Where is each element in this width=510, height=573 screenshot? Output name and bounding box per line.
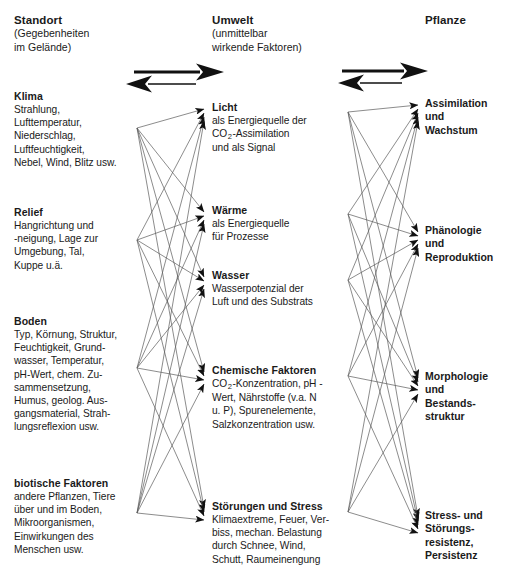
block-stoerungen-und-stress-title: Störungen und Stress (212, 500, 352, 513)
links-umwelt-to-pflanze (348, 105, 418, 533)
block-wasser: Wasser Wasserpotenzial derLuft und des S… (212, 269, 340, 308)
column-subtitle-umwelt-line1: (unmittelbar (212, 27, 340, 41)
column-header-umwelt: Umwelt (unmittelbar wirkende Faktoren) (212, 14, 340, 54)
block-chemische-faktoren-body: CO2-Konzentration, pH -Wert, Nährstoffe … (212, 377, 348, 431)
arrow-right-pair (338, 63, 428, 92)
column-subtitle-standort: (Gegebenheiten im Gelände) (14, 27, 164, 54)
block-klima-body: Strahlung,Lufttemperatur,Niederschlag,Lu… (14, 103, 164, 169)
block-boden-title: Boden (14, 315, 164, 328)
column-header-standort: Standort (Gegebenheiten im Gelände) (14, 14, 164, 54)
block-licht: Licht als Energiequelle derCO2-Assimilat… (212, 101, 340, 155)
column-subtitle-umwelt-line2: wirkende Faktoren) (212, 41, 340, 55)
column-header-pflanze: Pflanze (425, 14, 509, 26)
block-stoerungen-und-stress: Störungen und Stress Klimaextreme, Feuer… (212, 500, 352, 566)
block-licht-title: Licht (212, 101, 340, 114)
arrow-left-pair (126, 64, 224, 93)
column-title-standort: Standort (14, 14, 164, 26)
block-assimilation-und-wachstum: AssimilationundWachstum (425, 97, 509, 137)
block-relief-body: Hangrichtung und-neigung, Lage zurUmgebu… (14, 219, 164, 272)
column-subtitle-standort-line2: im Gelände) (14, 41, 164, 55)
block-stress-und-stoerungsresistenz-title: Stress- undStörungs-resistenz,Persistenz (425, 509, 509, 563)
block-morphologie-und-bestandsstruktur: MorphologieundBestands-struktur (425, 370, 509, 424)
block-relief-title: Relief (14, 206, 164, 219)
block-klima-title: Klima (14, 90, 164, 103)
column-title-pflanze: Pflanze (425, 14, 509, 26)
block-boden: Boden Typ, Körnung, Struktur,Feuchtigkei… (14, 315, 164, 434)
column-subtitle-umwelt: (unmittelbar wirkende Faktoren) (212, 27, 340, 54)
block-waerme-title: Wärme (212, 204, 340, 217)
block-waerme-body: als Energiequellefür Prozesse (212, 217, 340, 243)
block-chemische-faktoren-title: Chemische Faktoren (212, 364, 348, 377)
block-phaenologie-und-reproduktion: PhänologieundReproduktion (425, 224, 509, 264)
block-wasser-body: Wasserpotenzial derLuft und des Substrat… (212, 282, 340, 308)
diagram-root: Standort (Gegebenheiten im Gelände) Umwe… (0, 0, 510, 573)
block-wasser-title: Wasser (212, 269, 340, 282)
block-biotische-faktoren: biotische Faktoren andere Pflanzen, Tier… (14, 477, 164, 556)
block-phaenologie-und-reproduktion-title: PhänologieundReproduktion (425, 224, 509, 264)
block-waerme: Wärme als Energiequellefür Prozesse (212, 204, 340, 243)
column-subtitle-standort-line1: (Gegebenheiten (14, 27, 164, 41)
block-stress-und-stoerungsresistenz: Stress- undStörungs-resistenz,Persistenz (425, 509, 509, 563)
block-relief: Relief Hangrichtung und-neigung, Lage zu… (14, 206, 164, 272)
block-biotische-faktoren-body: andere Pflanzen, Tiereüber und im Boden,… (14, 490, 164, 556)
block-boden-body: Typ, Körnung, Struktur,Feuchtigkeit, Gru… (14, 328, 164, 434)
column-title-umwelt: Umwelt (212, 14, 340, 26)
block-stoerungen-und-stress-body: Klimaextreme, Feuer, Ver-biss, mechan. B… (212, 513, 352, 566)
block-morphologie-und-bestandsstruktur-title: MorphologieundBestands-struktur (425, 370, 509, 424)
block-licht-body: als Energiequelle derCO2-Assimilationund… (212, 114, 340, 155)
block-klima: Klima Strahlung,Lufttemperatur,Niedersch… (14, 90, 164, 169)
block-biotische-faktoren-title: biotische Faktoren (14, 477, 164, 490)
block-chemische-faktoren: Chemische Faktoren CO2-Konzentration, pH… (212, 364, 348, 431)
block-assimilation-und-wachstum-title: AssimilationundWachstum (425, 97, 509, 137)
